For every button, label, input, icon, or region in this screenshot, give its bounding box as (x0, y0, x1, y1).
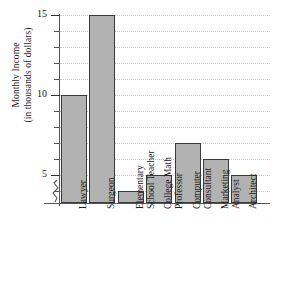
y-axis-minor-tick (54, 159, 60, 160)
x-axis-label-line: Surgeon (106, 177, 117, 210)
y-axis-major-tick (51, 95, 60, 96)
y-axis-title-line-1: Monthly Income (11, 43, 23, 108)
x-axis-label-line: College Math (163, 156, 174, 209)
y-axis-minor-tick (54, 127, 60, 128)
y-axis-major-tick (51, 15, 60, 16)
x-axis-label-line: Analyst (231, 168, 242, 209)
y-axis-minor-tick (54, 143, 60, 144)
y-axis-minor-tick (54, 63, 60, 64)
x-axis-label-line: Elementary (135, 149, 146, 209)
y-axis-title: Monthly Income (in thousands of dollars) (6, 5, 40, 145)
y-axis-tick-label: 10 (23, 88, 47, 99)
x-axis-label-line: Consultant (203, 167, 214, 209)
x-axis-label-line: Computer (192, 167, 203, 209)
x-axis-label-line: Marketing (220, 168, 231, 209)
y-axis-major-tick (51, 175, 60, 176)
x-axis-labels: LawyerSurgeonElementarySchool TeacherCol… (0, 203, 281, 288)
x-axis-label-line: Professor (174, 156, 185, 209)
y-axis-title-line-2: (in thousands of dollars) (23, 27, 35, 122)
y-axis-tick-label: 15 (23, 8, 47, 19)
bar-chart: Monthly Income (in thousands of dollars)… (0, 0, 281, 288)
x-axis-label-line: Architect (248, 173, 259, 209)
y-axis-minor-tick (54, 31, 60, 32)
y-axis-minor-tick (54, 47, 60, 48)
y-axis-tick-label: 5 (23, 168, 47, 179)
y-axis-minor-tick (54, 191, 60, 192)
x-axis-label-line: Lawyer (78, 179, 89, 209)
x-axis-label-line: School Teacher (146, 149, 157, 209)
bar-surgeon (89, 15, 115, 203)
y-axis-minor-tick (54, 111, 60, 112)
y-axis-minor-tick (54, 79, 60, 80)
